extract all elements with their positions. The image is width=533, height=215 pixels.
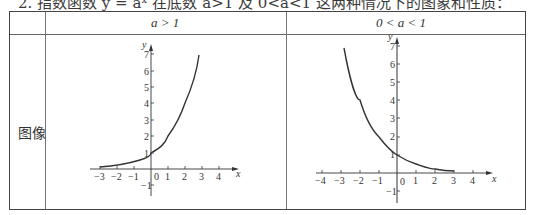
svg-text:5: 5 <box>144 82 149 93</box>
svg-text:4: 4 <box>144 98 149 109</box>
svg-text:7: 7 <box>390 41 395 52</box>
svg-text:2: 2 <box>182 171 187 182</box>
svg-text:1: 1 <box>390 149 395 160</box>
svg-text:−1: −1 <box>372 175 383 186</box>
svg-text:−1: −1 <box>128 171 139 182</box>
chart-right-labels: −4−3−2 −101 234 x y −1 123 4567 <box>315 31 497 197</box>
svg-text:1: 1 <box>165 171 170 182</box>
svg-text:7: 7 <box>144 49 149 60</box>
svg-text:1: 1 <box>144 148 149 159</box>
svg-text:2: 2 <box>144 131 149 142</box>
svg-text:6: 6 <box>390 59 395 70</box>
svg-text:6: 6 <box>144 66 149 77</box>
svg-text:3: 3 <box>451 175 456 186</box>
svg-text:−3: −3 <box>94 171 105 182</box>
svg-text:−2: −2 <box>353 175 364 186</box>
svg-text:4: 4 <box>216 171 221 182</box>
svg-text:x: x <box>491 173 497 184</box>
svg-text:3: 3 <box>390 113 395 124</box>
svg-text:3: 3 <box>144 115 149 126</box>
svg-text:3: 3 <box>199 171 204 182</box>
svg-text:5: 5 <box>390 77 395 88</box>
svg-text:−1: −1 <box>386 186 397 197</box>
svg-text:−1: −1 <box>141 180 152 191</box>
svg-text:2: 2 <box>432 175 437 186</box>
svg-text:1: 1 <box>413 175 418 186</box>
svg-text:−2: −2 <box>111 171 122 182</box>
charts-layer: −3−2−1 012 34 x y −1 123 4567 −4−3−2 −10… <box>0 0 533 215</box>
svg-text:0: 0 <box>400 176 405 187</box>
svg-text:−3: −3 <box>334 175 345 186</box>
svg-text:4: 4 <box>470 175 475 186</box>
svg-text:0: 0 <box>154 171 159 182</box>
svg-text:2: 2 <box>390 131 395 142</box>
svg-text:x: x <box>235 168 241 179</box>
svg-text:4: 4 <box>390 95 395 106</box>
svg-text:−4: −4 <box>315 175 326 186</box>
